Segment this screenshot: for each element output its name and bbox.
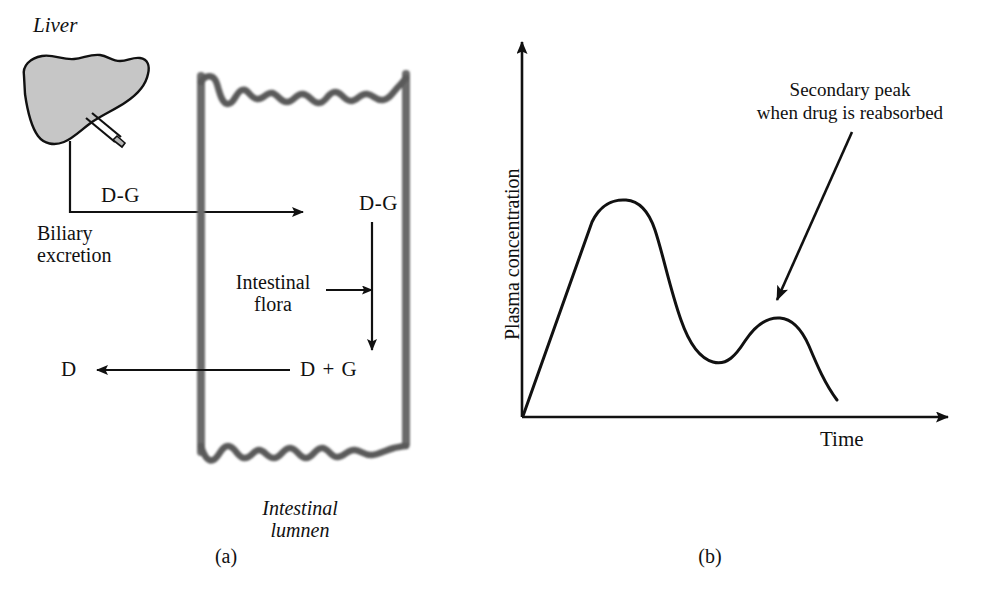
secondary-peak-annotation: Secondary peak when drug is reabsorbed: [720, 78, 980, 124]
panel-a-diagram: Liver D-G Biliary excretion Intestinal f…: [0, 0, 480, 598]
concentration-curve: [523, 200, 837, 416]
panel-b-caption: (b): [680, 545, 740, 567]
annotation-arrow: [777, 132, 852, 300]
dg-lumen-label: D-G: [359, 192, 398, 216]
panel-b-chart: Plasma concentration Time Secondary peak…: [480, 0, 992, 598]
figure-enterohepatic-recirculation: Liver D-G Biliary excretion Intestinal f…: [0, 0, 992, 598]
intestinal-flora-label: Intestinal flora: [225, 271, 321, 316]
liver-label: Liver: [33, 14, 77, 38]
liver-organ-icon: [24, 55, 149, 147]
panel-a-caption: (a): [196, 545, 256, 567]
d-plus-g-label: D + G: [300, 358, 358, 382]
x-axis-label: Time: [820, 428, 864, 452]
drug-absorbed-label: D: [61, 358, 76, 382]
dg-bile-label: D-G: [101, 184, 140, 208]
intestinal-wall: [201, 74, 406, 460]
y-axis-label: Plasma concentration: [501, 154, 523, 354]
biliary-excretion-label: Biliary excretion: [37, 222, 111, 267]
intestinal-lumen-label: Intestinal lumnen: [240, 497, 360, 542]
